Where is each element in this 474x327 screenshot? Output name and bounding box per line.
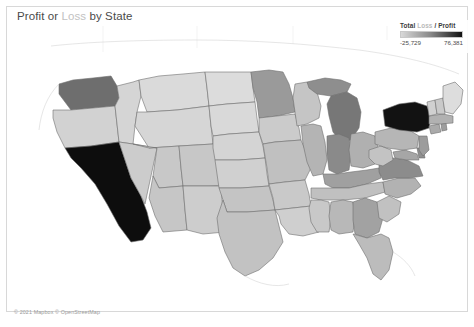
state-massachusetts[interactable] <box>429 114 453 124</box>
legend-title-dim: Loss <box>417 22 432 29</box>
state-new-york[interactable] <box>383 102 431 132</box>
title-prefix: Profit or <box>17 10 61 22</box>
state-indiana[interactable] <box>327 134 351 174</box>
title-dim-word: Loss <box>61 10 86 22</box>
state-north-carolina[interactable] <box>383 178 421 198</box>
profit-loss-map-visualization: Profit or Loss by State <box>0 0 474 327</box>
map-canvas[interactable] <box>7 26 467 311</box>
us-states-choropleth[interactable] <box>7 26 467 311</box>
state-iowa[interactable] <box>259 114 301 144</box>
legend-title-suffix: / Profit <box>433 22 456 29</box>
state-florida[interactable] <box>353 234 393 280</box>
legend-title-prefix: Total <box>400 22 417 29</box>
state-minnesota[interactable] <box>251 70 295 118</box>
state-alabama[interactable] <box>329 200 355 234</box>
title-suffix: by State <box>86 10 132 22</box>
state-rhode-island[interactable] <box>441 123 447 131</box>
state-oregon[interactable] <box>53 106 119 148</box>
state-maryland[interactable] <box>393 150 419 160</box>
map-attribution[interactable]: © 2021 Mapbox © OpenStreetMap <box>14 309 100 315</box>
state-kansas[interactable] <box>215 158 269 188</box>
legend-gradient-bar <box>400 31 463 38</box>
state-south-dakota[interactable] <box>209 102 259 136</box>
state-maine[interactable] <box>443 82 463 114</box>
state-connecticut[interactable] <box>429 124 441 134</box>
state-north-dakota[interactable] <box>205 72 255 106</box>
state-arkansas[interactable] <box>269 180 311 210</box>
state-nebraska[interactable] <box>213 132 265 160</box>
legend-title: Total Loss / Profit <box>400 22 468 29</box>
page-title: Profit or Loss by State <box>17 10 132 22</box>
legend: Total Loss / Profit -25,729 76,381 <box>396 20 468 53</box>
legend-max-value: 76,381 <box>444 39 463 46</box>
state-south-carolina[interactable] <box>377 196 401 222</box>
state-oklahoma[interactable] <box>219 186 275 212</box>
state-montana[interactable] <box>139 72 209 112</box>
legend-min-value: -25,729 <box>400 39 421 46</box>
state-washington[interactable] <box>59 76 119 110</box>
legend-scale-labels: -25,729 76,381 <box>400 38 463 48</box>
state-wyoming[interactable] <box>135 106 213 148</box>
